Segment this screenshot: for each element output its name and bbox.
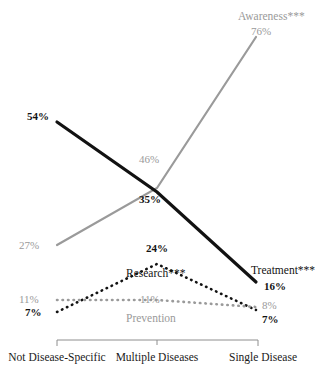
x-axis-label-not-disease-specific: Not Disease-Specific <box>0 352 114 364</box>
value-research-not-disease-specific: 7% <box>25 307 42 318</box>
value-treatment-single-disease: 16% <box>264 281 286 292</box>
x-axis-label-multiple-diseases: Multiple Diseases <box>104 352 210 364</box>
series-label-awareness: Awareness*** <box>238 11 305 23</box>
series-label-research: Research*** <box>126 268 185 280</box>
value-research-single-disease: 7% <box>262 314 279 325</box>
value-prevention-multiple-diseases: 11% <box>140 294 160 305</box>
slope-chart: Awareness*** 76% 46% 27% 54% 35% Treatme… <box>0 0 322 377</box>
value-treatment-multiple-diseases: 35% <box>139 194 161 205</box>
x-axis-bracket <box>57 340 258 346</box>
value-research-multiple-diseases: 24% <box>146 243 168 254</box>
value-awareness-not-disease-specific: 27% <box>19 240 39 251</box>
x-axis-label-single-disease: Single Disease <box>211 352 315 364</box>
value-awareness-single-disease: 76% <box>251 26 271 37</box>
value-prevention-single-disease: 8% <box>262 300 277 311</box>
value-prevention-not-disease-specific: 11% <box>19 294 39 305</box>
series-label-prevention: Prevention <box>126 313 176 325</box>
series-label-treatment: Treatment*** <box>251 265 315 277</box>
value-awareness-multiple-diseases: 46% <box>139 154 159 165</box>
value-treatment-not-disease-specific: 54% <box>27 111 49 122</box>
